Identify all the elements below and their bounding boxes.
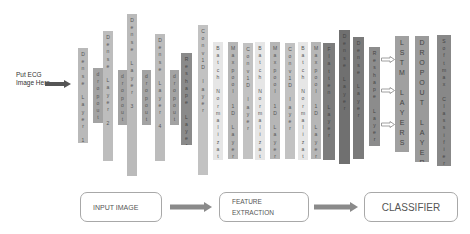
layer-dense-layer-3: Dense Layer 3 [127,14,137,176]
layer-label: Dense Layer [356,40,362,119]
layer-maxpool-1d-layer: Maxpool 1D Layer [311,42,321,159]
layer-dropout-layers: DROPOUT LAYERS [415,36,429,162]
layer-label: Dense Layer [342,33,348,112]
layer-conv1d-layer: Conv1D layer [243,43,253,159]
flow-box-input-image: INPUT IMAGE [80,192,162,222]
layer-dense-layer: Dense Layer [353,37,364,159]
layer-label: Dense Layer 2 [105,34,111,128]
layer-dense-layer-2: Dense Layer 2 [103,31,113,161]
layer-dropout: dropout [93,68,103,123]
layer-label: dropout [172,73,178,123]
flow-box-label: INPUT IMAGE [93,204,138,211]
layer-label: LSTM LAYERS [399,39,406,149]
flow-arrow-icon [170,202,212,212]
flow-box-label: CLASSIFIER [382,202,440,213]
layer-dropout: dropout [170,70,179,125]
layer-lstm-layers: LSTM LAYERS [395,36,409,152]
layer-dense-layer-4: Dense Layer 4 [155,34,165,161]
layer-label: Batch Normalization [257,45,263,160]
flow-box-feature-extraction: FEATURE EXTRACTION [219,192,309,222]
layer-flatten-layer: Flatten Layer [323,43,335,160]
layer-label: Reshape Layer [372,50,378,144]
layer-label: Conv1D layer [200,28,206,114]
layer-label: Maxpool 1D Layer [272,45,278,159]
layer-label: DROPOUT LAYERS [419,39,426,162]
layer-label: Flatten Layer [326,46,332,140]
flow-arrow-icon [314,202,358,212]
layer-label: Conv1D layer [287,46,293,132]
layer-dense-layer-1: Dense Layer 1 [78,48,88,143]
layer-label: dropout [144,73,150,123]
layer-maxpool-1d-layer: Maxpool 1D Layer [228,42,238,159]
layer-batch-normalization: Batch Normalization [213,42,223,160]
layer-label: Batch Normalization [300,45,306,160]
layer-dense-layer: Dense Layer [339,30,350,164]
layer-batch-normalization: Batch Normalization [255,42,265,160]
layer-dropout: dropout [118,70,127,125]
layer-batch-normalization: Batch Normalization [298,42,308,160]
layer-label: Batch Normalization [215,45,221,160]
layer-dropout: dropout [142,70,151,125]
layer-label: Dense Layer 4 [157,37,163,131]
flow-box-label: FEATURE EXTRACTION [232,196,284,218]
layer-label: dropout [120,73,126,123]
layer-label: Softmax Classifier [441,38,447,166]
layer-reshape-layer: Reshape Layer [181,53,192,145]
layer-label: Maxpool 1D Layer [230,45,236,159]
layer-label: Conv1D layer [245,46,251,132]
layer-conv1d-layer: Conv1D layer [285,43,295,159]
layer-label: dropout [95,71,101,121]
flow-box-classifier: CLASSIFIER [364,192,458,222]
layer-conv1d-layer: Conv1D layer [198,25,208,175]
layer-reshape-layer: Reshape Layer [369,47,380,146]
right-arrow-icon [381,56,395,63]
layer-label: Maxpool 1D Layer [313,45,319,159]
right-arrow-icon [381,121,395,128]
layer-maxpool-1d-layer: Maxpool 1D Layer [270,42,280,159]
layer-label: Dense Layer 1 [80,51,86,143]
input-arrow-icon [45,80,71,88]
layer-softmax-classifier: Softmax Classifier [437,35,451,166]
layer-label: Reshape Layer [184,56,190,145]
right-arrow-icon [381,87,395,94]
layer-label: Dense Layer 3 [129,17,135,111]
